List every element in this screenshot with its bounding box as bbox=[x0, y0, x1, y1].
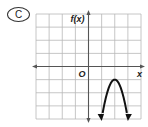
y-axis-arrow-up bbox=[87, 10, 91, 15]
y-axis-label: f(x) bbox=[71, 14, 85, 24]
curve-arrow-left bbox=[98, 114, 104, 121]
origin-label: O bbox=[79, 69, 86, 79]
y-axis-arrow-down bbox=[87, 118, 91, 123]
curve-arrow-right bbox=[125, 114, 131, 121]
x-axis-arrow-left bbox=[32, 65, 37, 69]
function-graph: f(x) x O bbox=[0, 0, 148, 127]
x-axis-label: x bbox=[136, 69, 143, 79]
